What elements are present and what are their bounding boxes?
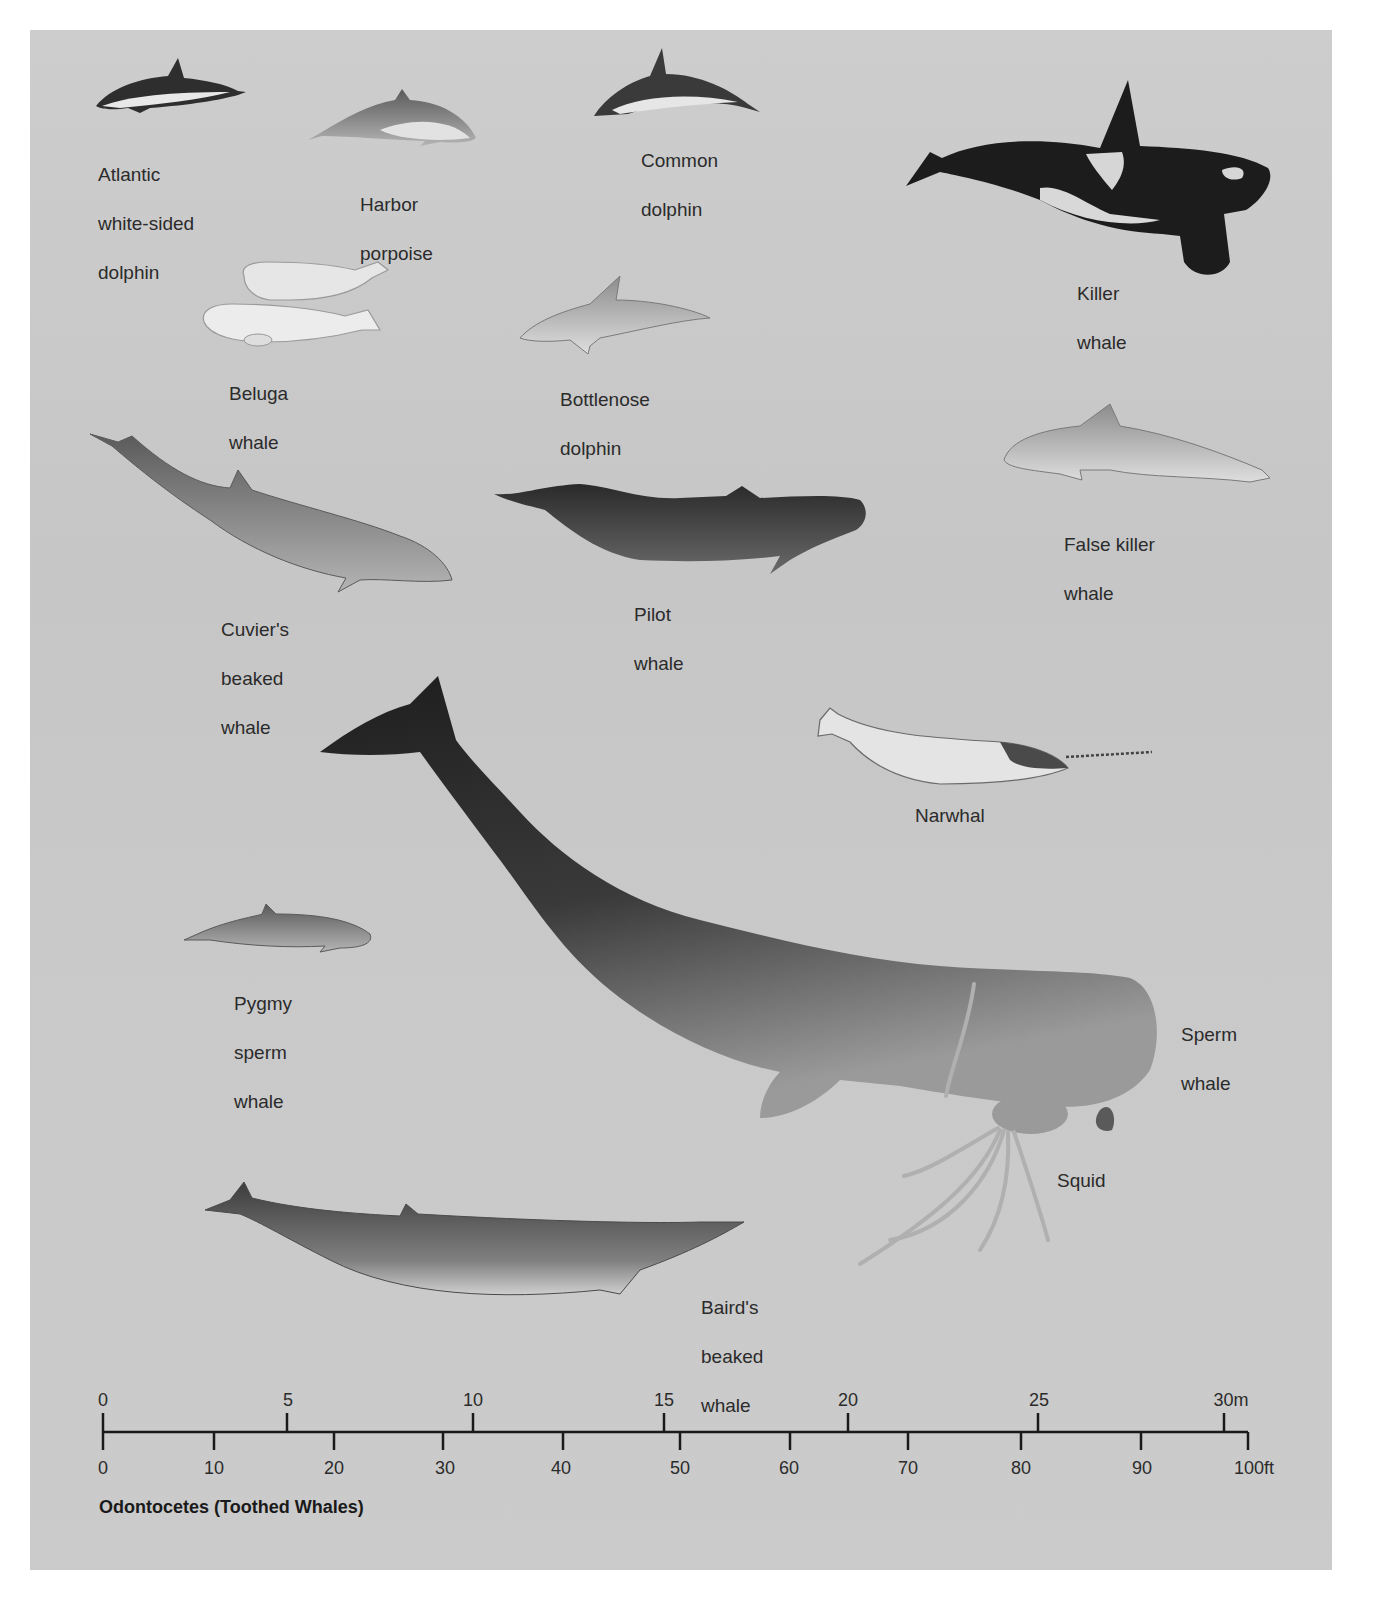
sperm-whale-illustration: [320, 676, 1157, 1131]
scale-ft-10: 10: [204, 1458, 224, 1478]
bairds-beaked-whale-illustration: [205, 1182, 744, 1295]
scale-m-5: 5: [283, 1390, 293, 1410]
scale-ft-20: 20: [324, 1458, 344, 1478]
scale-m-30: 30m: [1213, 1390, 1248, 1410]
scale-ft-90: 90: [1132, 1458, 1152, 1478]
scale-m-10: 10: [463, 1390, 483, 1410]
scale-bar: [103, 1413, 1248, 1450]
label-atlantic-white-sided-dolphin: Atlantic white-sided dolphin: [98, 138, 194, 310]
label-false-killer-whale: False killer whale: [1064, 508, 1155, 631]
killer-whale-illustration: [906, 80, 1270, 275]
scale-ft-50: 50: [670, 1458, 690, 1478]
narwhal-illustration: [818, 708, 1152, 784]
label-bottlenose-dolphin: Bottlenose dolphin: [560, 363, 650, 486]
scale-ft-80: 80: [1011, 1458, 1031, 1478]
label-common-dolphin: Common dolphin: [641, 124, 718, 247]
label-beluga-whale: Beluga whale: [229, 357, 288, 480]
label-squid: Squid: [1057, 1144, 1106, 1218]
bottlenose-dolphin-illustration: [520, 276, 710, 354]
figure-caption: Odontocetes (Toothed Whales): [99, 1497, 364, 1518]
label-bairds-beaked-whale: Baird's beaked whale: [701, 1271, 763, 1443]
label-pilot-whale: Pilot whale: [634, 578, 684, 701]
scale-ft-60: 60: [779, 1458, 799, 1478]
scale-m-15: 15: [654, 1390, 674, 1410]
scale-ft-40: 40: [551, 1458, 571, 1478]
scale-m-0: 0: [98, 1390, 108, 1410]
pilot-whale-illustration: [494, 484, 866, 574]
scale-ft-30: 30: [435, 1458, 455, 1478]
label-harbor-porpoise: Harbor porpoise: [360, 168, 433, 291]
scale-m-25: 25: [1029, 1390, 1049, 1410]
scale-ft-100: 100ft: [1234, 1458, 1274, 1478]
atlantic-white-sided-dolphin-illustration: [96, 58, 246, 113]
false-killer-whale-illustration: [1004, 404, 1270, 482]
label-killer-whale: Killer whale: [1077, 257, 1127, 380]
label-sperm-whale: Sperm whale: [1181, 998, 1237, 1121]
harbor-porpoise-illustration: [308, 89, 476, 146]
scale-ft-0: 0: [98, 1458, 108, 1478]
common-dolphin-illustration: [594, 48, 760, 116]
pygmy-sperm-whale-illustration: [184, 904, 371, 952]
label-narwhal: Narwhal: [915, 779, 985, 853]
scale-ft-70: 70: [898, 1458, 918, 1478]
label-pygmy-sperm-whale: Pygmy sperm whale: [234, 967, 292, 1139]
label-cuviers-beaked-whale: Cuvier's beaked whale: [221, 593, 289, 765]
scale-m-20: 20: [838, 1390, 858, 1410]
